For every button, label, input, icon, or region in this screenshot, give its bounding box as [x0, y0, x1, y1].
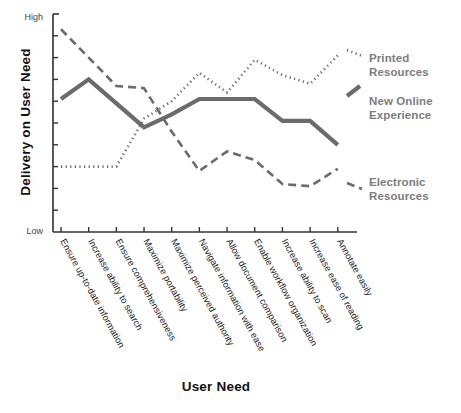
category-label: Increase ability to search: [86, 237, 145, 332]
category-label: Increase ease of reading: [307, 237, 365, 331]
legend-label: Resources: [369, 190, 429, 202]
y-axis-high-label: High: [24, 12, 43, 22]
legend-label: Printed: [369, 52, 409, 64]
legend-line-stub: [347, 50, 362, 56]
legend-label: New Online: [369, 95, 433, 107]
legend-label: Resources: [369, 66, 429, 78]
y-axis-low-label: Low: [26, 226, 43, 236]
chart-figure: Delivery on User Need High Low Ensure up…: [0, 0, 461, 413]
legend-label: Electronic: [369, 176, 426, 188]
series-group: [61, 29, 338, 186]
legend-line-stub: [347, 183, 362, 189]
category-labels: Ensure up-to-date informationIncrease ab…: [58, 237, 375, 353]
chart-legend: PrintedResourcesNew OnlineExperienceElec…: [347, 50, 433, 202]
series-line-electronic-resources: [61, 29, 338, 186]
legend-label: Experience: [369, 109, 431, 121]
series-line-new-online-experience: [61, 79, 338, 144]
legend-line-stub: [347, 86, 360, 96]
x-axis-title: User Need: [182, 379, 251, 394]
y-axis-title: Delivery on User Need: [18, 48, 33, 196]
line-chart: Delivery on User Need High Low Ensure up…: [0, 0, 461, 413]
category-label: Increase ability to scan: [280, 237, 335, 325]
